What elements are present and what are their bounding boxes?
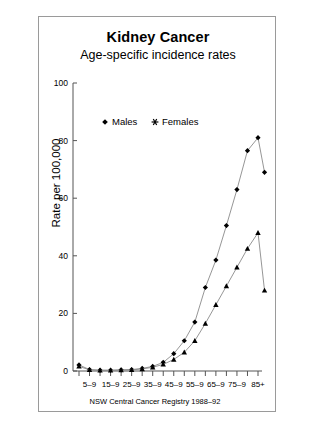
x-tick-label: 45–9 bbox=[165, 380, 183, 389]
data-point-females bbox=[203, 321, 208, 326]
data-point-females bbox=[245, 246, 250, 251]
x-tick-label: 65–9 bbox=[207, 380, 225, 389]
line-chart-plot: 0204060801005–915–925–935–945–955–965–97… bbox=[39, 17, 277, 413]
data-point-males bbox=[262, 170, 267, 175]
data-point-females bbox=[224, 283, 229, 288]
x-tick-label: 25–9 bbox=[123, 380, 141, 389]
y-tick-label: 20 bbox=[59, 308, 69, 318]
data-point-males bbox=[224, 223, 229, 228]
diamond-marker-icon bbox=[102, 119, 108, 125]
data-point-males bbox=[213, 258, 218, 263]
x-tick-label: 85+ bbox=[251, 380, 265, 389]
x-tick-label: 55–9 bbox=[186, 380, 204, 389]
source-note: NSW Central Cancer Registry 1988–92 bbox=[39, 397, 277, 406]
y-tick-label: 40 bbox=[59, 251, 69, 261]
y-tick-label: 80 bbox=[59, 136, 69, 146]
data-point-females bbox=[192, 338, 197, 343]
chart-figure-frame: Kidney Cancer Age-specific incidence rat… bbox=[38, 16, 276, 412]
x-tick-label: 35–9 bbox=[144, 380, 162, 389]
data-point-males bbox=[203, 285, 208, 290]
y-tick-label: 100 bbox=[54, 78, 68, 88]
series-line-males bbox=[79, 138, 265, 370]
x-tick-label: 75–9 bbox=[228, 380, 246, 389]
y-tick-label: 60 bbox=[59, 193, 69, 203]
data-point-males bbox=[192, 319, 197, 324]
x-tick-label: 15–9 bbox=[102, 380, 120, 389]
x-tick-label: 5–9 bbox=[83, 380, 97, 389]
data-point-females bbox=[255, 230, 260, 235]
data-point-females bbox=[234, 265, 239, 270]
star-marker-icon bbox=[152, 119, 159, 125]
data-point-males bbox=[234, 187, 239, 192]
legend-label-females: Females bbox=[162, 116, 199, 127]
data-point-females bbox=[213, 302, 218, 307]
data-point-females bbox=[171, 357, 176, 362]
data-point-females bbox=[262, 288, 267, 293]
legend-label-males: Males bbox=[112, 116, 138, 127]
series-line-females bbox=[79, 233, 265, 371]
y-tick-label: 0 bbox=[63, 366, 68, 376]
